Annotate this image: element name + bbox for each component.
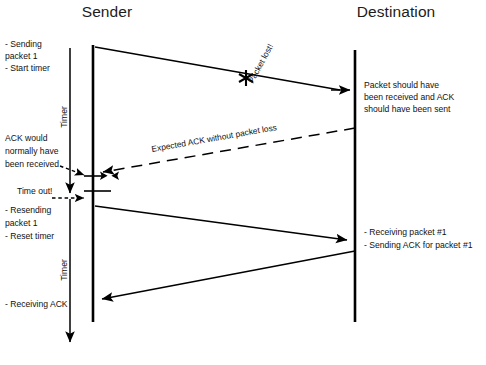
message-ack-for-packet-1	[102, 251, 355, 299]
note-line: - Start timer	[5, 63, 50, 73]
note-line: Time out!	[17, 186, 53, 196]
message-packet-1-resend	[95, 206, 347, 240]
note-line: - Sending ACK for packet #1	[364, 240, 473, 250]
note-line: - Receiving ACK	[5, 299, 68, 309]
timer-label-second: Timer	[59, 259, 69, 281]
note-line: ACK would	[5, 133, 48, 143]
leader-line-ack-would-have	[60, 166, 84, 175]
note-line: - Resending	[5, 205, 52, 215]
note-line: should have been sent	[364, 104, 451, 114]
note-time-out: Time out!	[17, 186, 53, 196]
note-resending-packet: - Resending packet 1 - Reset timer	[5, 205, 54, 241]
sequence-diagram-canvas: Sender Destination Timer Timer Packet lo…	[0, 0, 486, 365]
note-receiving-ack: - Receiving ACK	[5, 299, 68, 309]
lifeline-title-sender: Sender	[82, 3, 133, 20]
note-receiving-packet-and-sending-ack: - Receiving packet #1 - Sending ACK for …	[364, 227, 473, 250]
lifeline-title-destination: Destination	[357, 3, 436, 20]
note-line: Packet should have	[364, 80, 439, 90]
note-ack-would-have-been-received: ACK would normally have been received	[5, 133, 59, 169]
message-label-expected-ack: Expected ACK without packet loss	[151, 122, 278, 154]
note-line: - Sending	[5, 39, 42, 49]
note-line: been received and ACK	[364, 92, 455, 102]
timer-label-first: Timer	[59, 106, 69, 128]
note-line: normally have	[5, 146, 59, 156]
note-line: - Reset timer	[5, 231, 54, 241]
note-line: been received	[5, 159, 59, 169]
tick-arrowhead-pair-icon	[100, 172, 119, 180]
note-packet-should-have-been-received: Packet should have been received and ACK…	[364, 80, 455, 114]
message-packet-1-first-send	[95, 47, 340, 90]
note-line: - Receiving packet #1	[364, 227, 447, 237]
note-sending-packet: - Sending packet 1 - Start timer	[5, 39, 50, 73]
note-line: packet 1	[5, 51, 38, 61]
note-line: packet 1	[5, 218, 38, 228]
diagram-svg: Sender Destination Timer Timer Packet lo…	[0, 0, 486, 365]
